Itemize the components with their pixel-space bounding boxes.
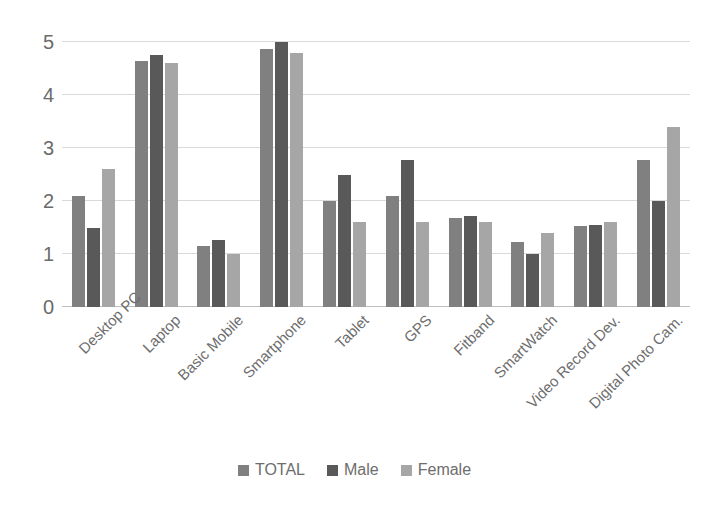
bar	[416, 222, 429, 307]
bar-group	[376, 42, 439, 307]
y-tick-label: 1	[8, 244, 54, 264]
y-tick-label: 4	[8, 85, 54, 105]
bar-group	[125, 42, 188, 307]
bar-layer	[62, 42, 690, 307]
bar-group	[250, 42, 313, 307]
bar-group	[502, 42, 565, 307]
bar	[290, 53, 303, 307]
legend-label: Female	[418, 462, 471, 478]
bar	[212, 240, 225, 307]
bar	[87, 228, 100, 308]
legend-item[interactable]: TOTAL	[238, 462, 305, 478]
legend-swatch-icon	[327, 465, 338, 476]
y-tick-label: 5	[8, 32, 54, 52]
bar	[275, 42, 288, 307]
bar	[574, 226, 587, 307]
bar	[338, 175, 351, 308]
bar	[401, 160, 414, 307]
bar-group	[439, 42, 502, 307]
bar-chart: 012345 Desktop PCLaptopBasic MobileSmart…	[0, 0, 709, 510]
x-tick-label: Basic Mobile	[113, 312, 247, 446]
chart-legend: TOTALMaleFemale	[0, 462, 709, 478]
bar	[667, 127, 680, 307]
legend-label: Male	[344, 462, 379, 478]
bar	[197, 246, 210, 307]
y-tick-label: 3	[8, 138, 54, 158]
y-tick-label: 2	[8, 191, 54, 211]
bar	[464, 216, 477, 307]
bar	[102, 169, 115, 307]
bar	[449, 218, 462, 307]
bar	[541, 233, 554, 307]
bar	[135, 61, 148, 307]
legend-swatch-icon	[401, 465, 412, 476]
bar	[165, 63, 178, 307]
bar	[386, 196, 399, 307]
bar	[72, 196, 85, 307]
bar	[150, 55, 163, 307]
bar	[652, 201, 665, 307]
legend-swatch-icon	[238, 465, 249, 476]
y-axis: 012345	[0, 42, 54, 307]
y-tick-label: 0	[8, 297, 54, 317]
bar	[323, 201, 336, 307]
bar	[637, 160, 650, 307]
x-tick-label: Desktop PC	[76, 312, 121, 357]
bar	[227, 254, 240, 307]
bar-group	[627, 42, 690, 307]
bar	[589, 225, 602, 307]
bar	[604, 222, 617, 307]
bar	[353, 222, 366, 307]
bar	[511, 242, 524, 307]
bar-group	[313, 42, 376, 307]
bar	[260, 49, 273, 307]
bar-group	[62, 42, 125, 307]
bar	[526, 254, 539, 307]
legend-item[interactable]: Male	[327, 462, 379, 478]
bar	[479, 222, 492, 307]
legend-item[interactable]: Female	[401, 462, 471, 478]
legend-label: TOTAL	[255, 462, 305, 478]
bar-group	[564, 42, 627, 307]
bar-group	[188, 42, 251, 307]
x-axis: Desktop PCLaptopBasic MobileSmartphoneTa…	[62, 312, 690, 432]
